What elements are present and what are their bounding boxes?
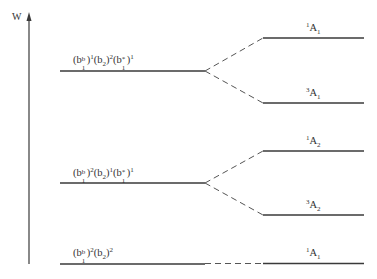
state-label-1A1-ground: 1A1 [306,248,321,259]
config-label-1: (bb1)1(b2)2(b*1)1 [73,55,134,66]
connector-1a [205,38,263,71]
connector-1b [205,71,263,103]
axis-label: W [12,11,21,22]
state-label-1A1-upper: 1A1 [306,23,321,34]
axis-arrow-icon [27,12,32,21]
state-label-1A2: 1A2 [306,136,321,147]
state-label-3A2: 3A2 [306,200,321,211]
config-label-3: (bb1)2(b2)2 [73,248,113,259]
state-label-3A1: 3A1 [306,88,321,99]
config-label-2: (bb1)2(b2)1(b*1)1 [73,168,134,179]
connector-2a [205,151,263,183]
connector-2b [205,183,263,215]
